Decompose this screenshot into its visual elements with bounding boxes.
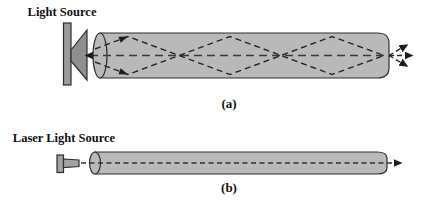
panel-a: Light Source (a) — [28, 5, 405, 111]
laser-barrel — [64, 159, 80, 168]
exit-arrow-down — [389, 56, 401, 63]
exit-arrow-up — [389, 49, 401, 56]
light-source-label: Light Source — [28, 5, 97, 19]
light-source-cone-icon — [71, 30, 87, 80]
fiber-optics-figure: Light Source (a) Laser Light Source — [0, 0, 424, 203]
panel-a-caption: (a) — [221, 96, 236, 111]
figure-canvas: Light Source (a) Laser Light Source — [0, 0, 424, 203]
panel-b: Laser Light Source (b) — [13, 131, 394, 195]
light-source-panel — [64, 23, 72, 85]
fiber-b-body — [95, 152, 387, 174]
panel-b-caption: (b) — [221, 180, 237, 195]
laser-source-label: Laser Light Source — [13, 131, 116, 145]
laser-head — [57, 155, 64, 173]
